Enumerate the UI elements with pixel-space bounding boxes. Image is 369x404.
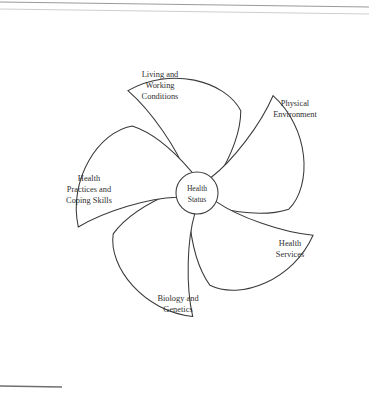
petal-label-living-and-working-conditions-line-2: Working: [145, 81, 175, 90]
petal-label-living-and-working-conditions-line-1: Living and: [142, 70, 179, 79]
petal-label-health-practices-and-coping-skills-line-3: Coping Skills: [66, 196, 112, 205]
scan-artifacts: [0, 2, 369, 14]
petal-label-health-practices-and-coping-skills-line-1: Health: [78, 174, 101, 183]
petal-label-health-practices-and-coping-skills-line-2: Practices and: [67, 185, 112, 194]
health-status-hub-circle: [176, 172, 218, 214]
petal-label-physical-environment-line-1: Physical: [281, 99, 310, 108]
scan-edge-line: [0, 2, 369, 7]
petal-label-health-services-line-1: Health: [279, 239, 302, 248]
petal-label-biology-and-genetics-line-1: Biology and: [157, 294, 199, 303]
hub-label-line-2: Status: [188, 195, 207, 204]
petal-label-health-services-line-2: Services: [276, 250, 304, 259]
health-status-pinwheel-diagram: Health Status Living andWorkingCondition…: [0, 0, 369, 404]
petal-label-physical-environment-line-2: Environment: [273, 110, 317, 119]
scan-edge-line-secondary: [0, 9, 369, 14]
pinwheel-figure: Health Status Living andWorkingCondition…: [0, 0, 369, 404]
hub-group: Health Status: [176, 172, 218, 214]
hub-label-line-1: Health: [187, 184, 207, 193]
petal-label-living-and-working-conditions-line-3: Conditions: [142, 92, 179, 101]
footnote-separator-rule: [0, 386, 62, 387]
petal-label-biology-and-genetics-line-2: Genetics: [163, 305, 192, 314]
